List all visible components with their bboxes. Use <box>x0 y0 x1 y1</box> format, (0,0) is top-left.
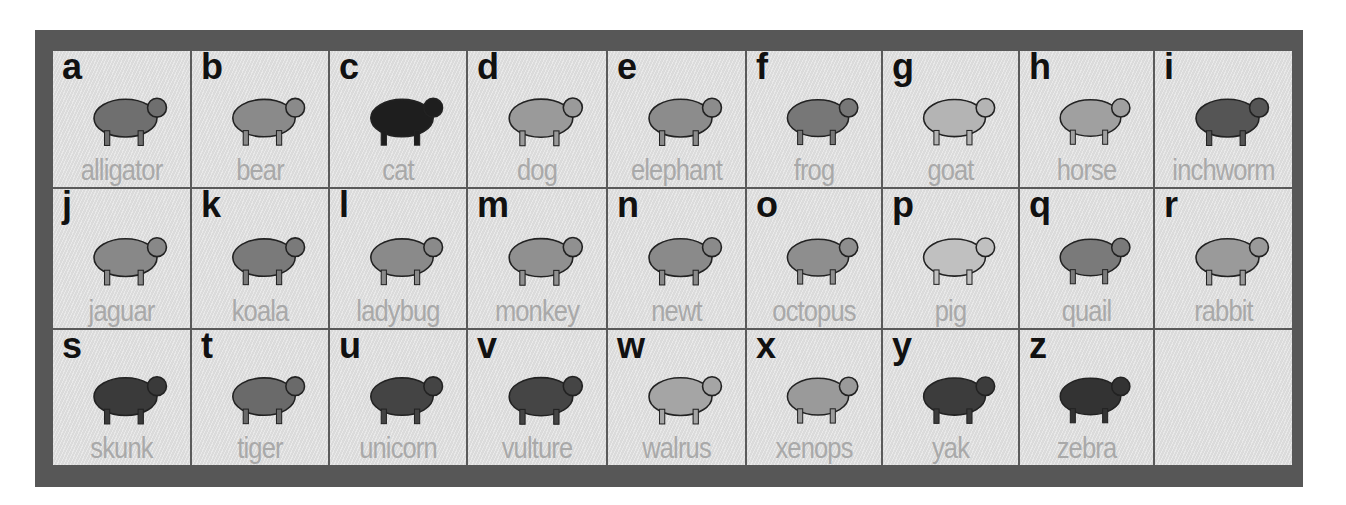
skunk-icon <box>73 352 178 435</box>
alphabet-cell-quail: q quail <box>1020 189 1153 328</box>
alphabet-cell-horse: h horse <box>1020 51 1153 187</box>
alphabet-cell-frog: f frog <box>747 51 881 187</box>
alphabet-cell-alligator: a alligator <box>53 51 190 187</box>
alphabet-cell-empty <box>1155 330 1292 465</box>
cell-word: pig <box>893 296 1008 326</box>
alphabet-grid: a alligator b bear c cat d dog e elephan… <box>53 51 1284 465</box>
rabbit-icon <box>1175 211 1280 298</box>
ladybug-icon <box>350 211 454 298</box>
cell-word: unicorn <box>340 433 456 463</box>
cell-word: cat <box>340 155 456 185</box>
alphabet-cell-ladybug: l ladybug <box>330 189 466 328</box>
pig-icon <box>903 211 1006 298</box>
alphabet-cell-bear: b bear <box>192 51 328 187</box>
cell-word: dog <box>478 155 595 185</box>
vulture-icon <box>488 352 594 435</box>
alphabet-cell-cat: c cat <box>330 51 466 187</box>
alligator-icon <box>73 73 178 157</box>
alphabet-cell-pig: p pig <box>883 189 1018 328</box>
bear-icon <box>212 73 316 157</box>
cell-word: yak <box>893 433 1008 463</box>
cell-word: ladybug <box>340 296 456 326</box>
cell-word: bear <box>202 155 318 185</box>
unicorn-icon <box>350 352 454 435</box>
cell-word: monkey <box>478 296 595 326</box>
cell-word: zebra <box>1030 433 1143 463</box>
cell-word: frog <box>757 155 871 185</box>
cell-word: vulture <box>478 433 595 463</box>
inchworm-icon <box>1175 73 1280 157</box>
cell-word: xenops <box>757 433 871 463</box>
zebra-icon <box>1040 352 1141 435</box>
alphabet-cell-walrus: w walrus <box>608 330 745 465</box>
cell-word: alligator <box>63 155 179 185</box>
alphabet-cell-vulture: v vulture <box>468 330 606 465</box>
alphabet-cell-octopus: o octopus <box>747 189 881 328</box>
elephant-icon <box>628 73 733 157</box>
xenops-icon <box>767 352 869 435</box>
yak-icon <box>903 352 1006 435</box>
alphabet-cell-unicorn: u unicorn <box>330 330 466 465</box>
alphabet-cell-goat: g goat <box>883 51 1018 187</box>
cell-word: walrus <box>618 433 734 463</box>
walrus-icon <box>628 352 733 435</box>
alphabet-cell-elephant: e elephant <box>608 51 745 187</box>
alphabet-cell-rabbit: r rabbit <box>1155 189 1292 328</box>
alphabet-cell-koala: k koala <box>192 189 328 328</box>
tiger-icon <box>212 352 316 435</box>
alphabet-cell-zebra: z zebra <box>1020 330 1153 465</box>
cat-icon <box>350 73 454 157</box>
cell-word: quail <box>1030 296 1143 326</box>
cell-letter: i <box>1164 51 1174 85</box>
cell-word: jaguar <box>63 296 179 326</box>
empty-slot <box>1175 352 1280 435</box>
alphabet-cell-tiger: t tiger <box>192 330 328 465</box>
alphabet-cell-xenops: x xenops <box>747 330 881 465</box>
cell-word: octopus <box>757 296 871 326</box>
frog-icon <box>767 73 869 157</box>
alphabet-cell-newt: n newt <box>608 189 745 328</box>
monkey-icon <box>488 211 594 298</box>
cell-letter: l <box>339 189 349 223</box>
alphabet-chart-frame: a alligator b bear c cat d dog e elephan… <box>35 30 1303 487</box>
cell-word: elephant <box>618 155 734 185</box>
alphabet-cell-skunk: s skunk <box>53 330 190 465</box>
cell-word: goat <box>893 155 1008 185</box>
newt-icon <box>628 211 733 298</box>
octopus-icon <box>767 211 869 298</box>
cell-letter: j <box>62 189 72 223</box>
dog-icon <box>488 73 594 157</box>
cell-word: skunk <box>63 433 179 463</box>
goat-icon <box>903 73 1006 157</box>
cell-word: horse <box>1030 155 1143 185</box>
jaguar-icon <box>73 211 178 298</box>
cell-word: koala <box>202 296 318 326</box>
cell-word: inchworm <box>1165 155 1281 185</box>
horse-icon <box>1040 73 1141 157</box>
alphabet-cell-monkey: m monkey <box>468 189 606 328</box>
cell-word: newt <box>618 296 734 326</box>
quail-icon <box>1040 211 1141 298</box>
alphabet-cell-jaguar: j jaguar <box>53 189 190 328</box>
alphabet-cell-dog: d dog <box>468 51 606 187</box>
cell-word: tiger <box>202 433 318 463</box>
cell-word: rabbit <box>1165 296 1281 326</box>
alphabet-cell-inchworm: i inchworm <box>1155 51 1292 187</box>
alphabet-cell-yak: y yak <box>883 330 1018 465</box>
koala-icon <box>212 211 316 298</box>
